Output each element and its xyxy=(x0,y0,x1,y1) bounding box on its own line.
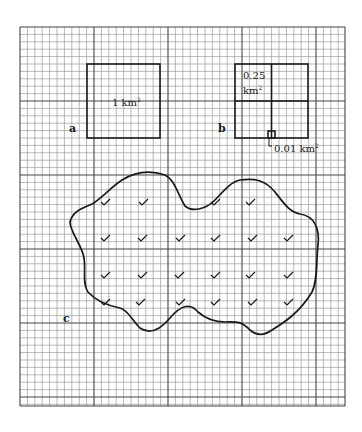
panel-label-a: a xyxy=(69,122,76,135)
panel-label-c: c xyxy=(63,312,70,325)
panel-label-b: b xyxy=(218,122,226,135)
checkmark-icon xyxy=(284,299,293,305)
checkmark-icon xyxy=(176,299,185,305)
irregular-region-outline xyxy=(70,172,318,334)
quarter-km-label: 0.25 km2 xyxy=(243,70,265,97)
grid-area-diagram: 1 km2 a 0.25 km2 b 0.01 km2 c xyxy=(0,0,362,432)
graph-paper-grid xyxy=(0,0,362,432)
checkmark-icon xyxy=(284,235,293,241)
small-square-label: 0.01 km2 xyxy=(274,140,319,155)
minor-grid-lines xyxy=(20,27,345,406)
checkmark-icon xyxy=(139,199,148,205)
checkmark-icon xyxy=(136,299,145,305)
checkmark-icon xyxy=(284,272,293,278)
checkmark-icon xyxy=(246,272,255,278)
one-km-label: 1 km2 xyxy=(112,94,141,109)
checkmark-icon xyxy=(176,235,185,241)
checkmark-icon xyxy=(246,199,255,205)
